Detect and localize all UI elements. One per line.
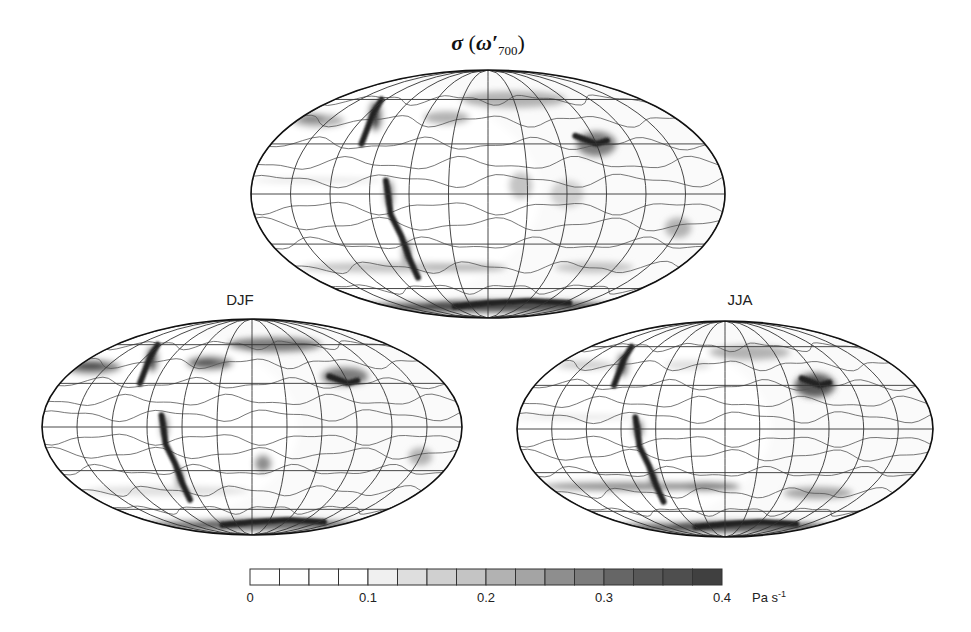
colorbar-box [516, 569, 546, 585]
map-panel-djf [0, 319, 462, 535]
colorbar-box [663, 569, 693, 585]
field-region [509, 172, 533, 200]
title-open-paren: ( [463, 30, 476, 55]
figure-title: σ (ω′700) [451, 30, 525, 58]
unit-main: Pa s [752, 590, 779, 605]
field-region [254, 455, 272, 473]
figure: σ (ω′700) DJF JJA 0 0.1 0.2 0.3 0.4 Pa s… [0, 0, 971, 632]
colorbar-box [309, 569, 339, 585]
colorbar-box [339, 569, 369, 585]
colorbar-box [604, 569, 634, 585]
unit-superscript: -1 [778, 589, 786, 599]
colorbar-tick-2: 0.2 [477, 590, 495, 605]
colorbar-box [427, 569, 457, 585]
colorbar [250, 569, 722, 585]
title-subscript: 700 [498, 43, 518, 58]
colorbar-box [398, 569, 428, 585]
panel-label-djf: DJF [226, 291, 254, 308]
colorbar-unit: Pa s-1 [752, 589, 786, 605]
title-close-paren: ) [517, 30, 524, 55]
colorbar-box [250, 569, 280, 585]
panel-label-jja: JJA [727, 291, 752, 308]
colorbar-box [280, 569, 310, 585]
colorbar-box [486, 569, 516, 585]
colorbar-tick-3: 0.3 [595, 590, 613, 605]
title-omega: ω′ [476, 30, 498, 55]
field-region [555, 262, 634, 273]
colorbar-tick-1: 0.1 [359, 590, 377, 605]
map-panel-annual [67, 70, 725, 318]
field-region [671, 482, 740, 492]
colorbar-box [457, 569, 487, 585]
colorbar-box [634, 569, 664, 585]
field-region [106, 444, 147, 454]
colorbar-box [545, 569, 575, 585]
field-region [665, 360, 711, 370]
field-region [462, 215, 488, 223]
colorbar-tick-0: 0 [246, 590, 253, 605]
colorbar-box [693, 569, 723, 585]
colorbar-tick-4: 0.4 [713, 590, 731, 605]
colorbar-box [368, 569, 398, 585]
field-region [191, 436, 220, 448]
colorbar-box [575, 569, 605, 585]
